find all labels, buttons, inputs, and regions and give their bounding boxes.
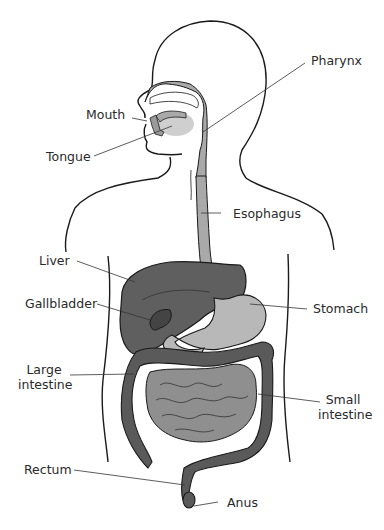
label-stomach: Stomach	[313, 301, 368, 316]
label-small-intestine-line1: Small	[318, 392, 368, 407]
label-small-intestine-line2: intestine	[318, 407, 368, 422]
pharynx-shape	[145, 81, 207, 178]
digestive-system-diagram: Pharynx Mouth Tongue Esophagus Liver Gal…	[0, 0, 384, 530]
label-tongue: Tongue	[46, 149, 91, 164]
label-pharynx: Pharynx	[311, 53, 362, 68]
label-large-intestine-line1: Large	[18, 362, 70, 377]
label-small-intestine: Small intestine	[318, 392, 368, 422]
label-rectum: Rectum	[24, 462, 72, 477]
label-gallbladder: Gallbladder	[25, 296, 97, 311]
label-esophagus: Esophagus	[233, 206, 301, 221]
label-liver: Liver	[39, 253, 70, 268]
small-intestine-shape	[146, 364, 257, 442]
label-anus: Anus	[227, 495, 258, 510]
label-large-intestine-line2: intestine	[18, 377, 70, 392]
label-mouth: Mouth	[86, 107, 125, 122]
label-large-intestine: Large intestine	[18, 362, 70, 392]
